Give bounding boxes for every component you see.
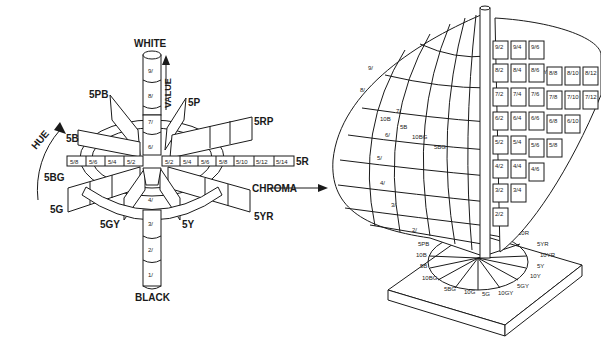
svg-text:8/4: 8/4 (513, 67, 522, 73)
base-hue-label: 10Y (530, 273, 541, 279)
value-axis-label: VALUE (163, 78, 173, 108)
svg-text:6/6: 6/6 (531, 115, 540, 121)
base-hue-label: 5YR (537, 241, 549, 247)
solid-value-label: 2/ (412, 227, 417, 233)
solid-value-label: 7/ (396, 108, 401, 114)
value-step-label: 6/ (148, 144, 153, 150)
chroma-label: 5/2 (127, 159, 136, 165)
chroma-label: 5/4 (108, 159, 117, 165)
munsell-diagram-canvas: 5/8 5/6 5/4 5/2 5/2 5/4 5/6 5/8 5/10 5/1… (0, 0, 601, 342)
hue-label-5rp: 5RP (254, 116, 274, 127)
svg-text:5/2: 5/2 (495, 139, 504, 145)
svg-text:8/10: 8/10 (567, 70, 579, 76)
svg-text:8/2: 8/2 (495, 67, 504, 73)
value-step-label: 7/ (148, 119, 153, 125)
svg-text:5/4: 5/4 (513, 139, 522, 145)
solid-value-label: 9/ (368, 65, 373, 71)
solid-value-label: 5/ (377, 155, 382, 161)
svg-text:3/2: 3/2 (495, 187, 504, 193)
white-label: WHITE (134, 38, 167, 49)
svg-text:8/12: 8/12 (585, 70, 597, 76)
base-hue-label: 10B (416, 252, 427, 258)
svg-text:7/2: 7/2 (495, 91, 504, 97)
value-step-label: 9/ (148, 68, 153, 74)
chroma-label: 5/12 (256, 159, 268, 165)
svg-text:9/4: 9/4 (513, 44, 522, 50)
svg-text:5/6: 5/6 (531, 142, 540, 148)
chroma-strip-right: 5/2 5/4 5/6 5/8 5/10 5/12 5/14 (162, 156, 294, 166)
value-step-label: 4/ (148, 197, 153, 203)
base-hue-label: 5G (482, 291, 490, 297)
hue-label-5gy: 5GY (100, 219, 120, 230)
svg-text:2/2: 2/2 (495, 211, 504, 217)
hue-label-5pb: 5PB (89, 89, 108, 100)
svg-text:4/4: 4/4 (513, 163, 522, 169)
value-arrow-head-icon (162, 55, 170, 65)
chroma-label: 5/4 (183, 159, 192, 165)
central-pole (480, 8, 490, 258)
solid-value-label: 8/ (360, 87, 365, 93)
svg-text:9/6: 9/6 (531, 44, 540, 50)
base-hue-label: 5PB (418, 241, 429, 247)
chroma-label: 5/8 (219, 159, 228, 165)
svg-text:6/4: 6/4 (513, 115, 522, 121)
solid-hue-label: 10B (380, 116, 391, 122)
hue-label-5g: 5G (50, 204, 64, 215)
base-hue-label: 10YR (540, 252, 556, 258)
hue-label-5p: 5P (188, 97, 201, 108)
svg-text:7/6: 7/6 (531, 91, 540, 97)
solid-hue-label: 5BG (434, 144, 446, 150)
chroma-strip-left: 5/8 5/6 5/4 5/2 (67, 156, 143, 166)
color-solid-body (333, 12, 488, 255)
svg-text:5/8: 5/8 (549, 142, 558, 148)
hue-label-5yr: 5YR (254, 211, 274, 222)
svg-text:7/8: 7/8 (549, 94, 558, 100)
svg-text:4/6: 4/6 (531, 166, 540, 172)
chroma-label: 5/14 (276, 159, 288, 165)
value-step-label: 8/ (148, 93, 153, 99)
svg-text:4/2: 4/2 (495, 163, 504, 169)
solid-value-label: 3/ (391, 202, 396, 208)
svg-text:8/6: 8/6 (531, 67, 540, 73)
svg-text:9/2: 9/2 (495, 44, 504, 50)
base-hue-label: 10GY (498, 290, 513, 296)
base-hue-label: 5Y (537, 263, 544, 269)
hue-label-5b: 5B (66, 133, 79, 144)
svg-text:6/2: 6/2 (495, 115, 504, 121)
solid-hue-label: 5B (400, 124, 407, 130)
svg-text:6/10: 6/10 (567, 118, 579, 124)
solid-hue-label: 10BG (412, 134, 428, 140)
value-step-label: 2/ (148, 247, 153, 253)
solid-value-label: 6/ (385, 132, 390, 138)
chroma-label: 5/6 (89, 159, 98, 165)
svg-text:8/8: 8/8 (549, 70, 558, 76)
svg-text:7/12: 7/12 (585, 94, 597, 100)
svg-text:7/10: 7/10 (567, 94, 579, 100)
base-hue-label: 10G (464, 289, 476, 295)
chroma-arrow-head-icon (318, 184, 328, 192)
base-hue-label: 5GY (517, 283, 529, 289)
svg-text:7/4: 7/4 (513, 91, 522, 97)
chroma-label: 5/8 (70, 159, 79, 165)
chroma-label: 5/10 (236, 159, 248, 165)
value-step-label: 1/ (148, 272, 153, 278)
chroma-label: 5/2 (165, 159, 174, 165)
chroma-label: 5/6 (201, 159, 210, 165)
hue-label-5bg: 5BG (44, 172, 65, 183)
base-hue-label: 5B (420, 263, 427, 269)
munsell-solid-schematic: 5/8 5/6 5/4 5/2 5/2 5/4 5/6 5/8 5/10 5/1… (29, 38, 328, 303)
base-hue-label: 10BG (422, 275, 438, 281)
value-axis-cylinder: 9/ 8/ 7/ 6/ 4/ 3/ 2/ 1/ (143, 51, 161, 289)
munsell-tree-model: 10R 5YR 10YR 5Y 10Y 5GY 10GY 5G 10G 5BG … (333, 6, 601, 336)
value-step-label: 3/ (148, 221, 153, 227)
svg-text:3/4: 3/4 (513, 187, 522, 193)
hue-arrow-head-icon (54, 122, 66, 134)
black-label: BLACK (135, 292, 171, 303)
hue-label-5y: 5Y (182, 219, 195, 230)
hue-label-5r: 5R (296, 156, 310, 167)
chroma-axis-label: CHROMA (252, 183, 297, 194)
solid-value-label: 4/ (380, 180, 385, 186)
svg-text:6/8: 6/8 (549, 118, 558, 124)
base-hue-label: 5BG (444, 286, 456, 292)
